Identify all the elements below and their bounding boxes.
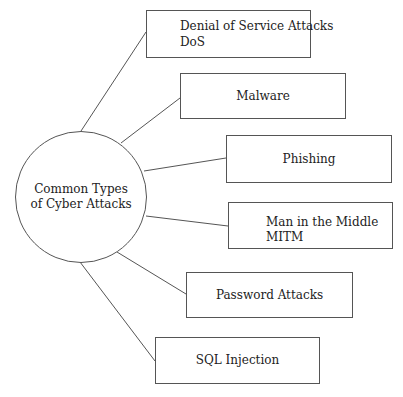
connector-mitm — [146, 216, 228, 226]
node-phishing: Phishing — [226, 135, 392, 183]
hub-label-line2: of Cyber Attacks — [30, 197, 131, 212]
connector-phishing — [144, 158, 226, 171]
node-sql-label: SQL Injection — [156, 353, 319, 368]
node-dos-line1: Denial of Service Attacks — [180, 19, 333, 34]
connector-dos — [81, 32, 146, 131]
node-dos: Denial of Service Attacks DoS — [146, 10, 311, 58]
connector-password — [117, 252, 186, 294]
node-phishing-label: Phishing — [227, 152, 391, 167]
node-mitm-line2: MITM — [266, 230, 303, 245]
node-mitm-line1: Man in the Middle — [266, 215, 378, 230]
connector-sql — [80, 262, 155, 361]
connector-malware — [121, 98, 180, 143]
hub-label-line1: Common Types — [30, 182, 131, 197]
node-malware-label: Malware — [181, 89, 345, 104]
node-sql: SQL Injection — [155, 337, 320, 384]
node-password: Password Attacks — [186, 272, 353, 318]
node-dos-line2: DoS — [180, 35, 205, 50]
node-malware: Malware — [180, 73, 346, 119]
hub-node: Common Types of Cyber Attacks — [15, 131, 147, 263]
node-password-label: Password Attacks — [187, 288, 352, 303]
node-mitm: Man in the Middle MITM — [228, 202, 393, 249]
